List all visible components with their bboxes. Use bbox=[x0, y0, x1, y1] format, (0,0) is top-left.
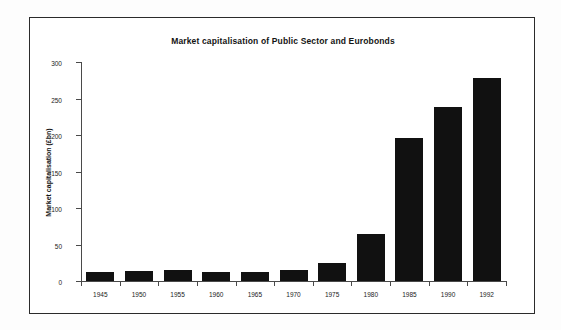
x-axis-tick bbox=[158, 281, 159, 286]
y-axis-tick bbox=[76, 172, 82, 173]
x-axis-tick bbox=[81, 281, 82, 286]
x-axis-line bbox=[81, 281, 506, 282]
bar bbox=[241, 272, 269, 281]
y-axis-tick-label: 100 bbox=[51, 206, 62, 213]
x-axis-tick-label: 1960 bbox=[209, 291, 223, 298]
y-axis-tick bbox=[76, 135, 82, 136]
x-axis-tick bbox=[390, 281, 391, 286]
x-axis-tick-label: 1985 bbox=[402, 291, 416, 298]
chart-frame: Market capitalisation of Public Sector a… bbox=[29, 17, 535, 314]
bar bbox=[202, 272, 230, 281]
y-axis-tick-label: 200 bbox=[51, 133, 62, 140]
bar bbox=[395, 138, 423, 281]
x-axis-tick bbox=[313, 281, 314, 286]
y-axis-tick bbox=[76, 99, 82, 100]
x-axis-tick-label: 1970 bbox=[286, 291, 300, 298]
bar bbox=[473, 78, 501, 281]
bar bbox=[280, 270, 308, 281]
plot-area: 050100150200250300 194519501955196019651… bbox=[81, 63, 506, 282]
x-axis-tick-label: 1955 bbox=[170, 291, 184, 298]
bar bbox=[164, 270, 192, 281]
y-axis-tick bbox=[76, 208, 82, 209]
x-axis-tick-label: 1980 bbox=[364, 291, 378, 298]
x-axis-tick bbox=[467, 281, 468, 286]
bar bbox=[86, 272, 114, 281]
y-axis-tick-label: 300 bbox=[51, 60, 62, 67]
x-axis-tick bbox=[506, 281, 507, 286]
bar bbox=[357, 234, 385, 281]
y-axis-tick-label: 50 bbox=[55, 242, 62, 249]
x-axis-tick-label: 1945 bbox=[93, 291, 107, 298]
y-axis-tick-label: 250 bbox=[51, 96, 62, 103]
x-axis-tick-label: 1990 bbox=[441, 291, 455, 298]
x-axis-tick-label: 1992 bbox=[479, 291, 493, 298]
y-axis-tick-label: 0 bbox=[58, 279, 62, 286]
x-axis-tick bbox=[429, 281, 430, 286]
y-axis-tick-label: 150 bbox=[51, 169, 62, 176]
y-axis-tick bbox=[76, 245, 82, 246]
bar bbox=[125, 271, 153, 281]
y-axis-line bbox=[81, 63, 82, 282]
bar bbox=[318, 263, 346, 281]
x-axis-tick bbox=[197, 281, 198, 286]
x-axis-tick-label: 1950 bbox=[132, 291, 146, 298]
x-axis-tick bbox=[120, 281, 121, 286]
x-axis-tick-label: 1975 bbox=[325, 291, 339, 298]
x-axis-tick bbox=[236, 281, 237, 286]
chart-figure: Market capitalisation of Public Sector a… bbox=[0, 0, 561, 330]
y-axis-tick bbox=[76, 62, 82, 63]
x-axis-tick bbox=[351, 281, 352, 286]
x-axis-tick-label: 1965 bbox=[248, 291, 262, 298]
chart-title: Market capitalisation of Public Sector a… bbox=[30, 36, 536, 46]
bar bbox=[434, 107, 462, 281]
x-axis-tick bbox=[274, 281, 275, 286]
